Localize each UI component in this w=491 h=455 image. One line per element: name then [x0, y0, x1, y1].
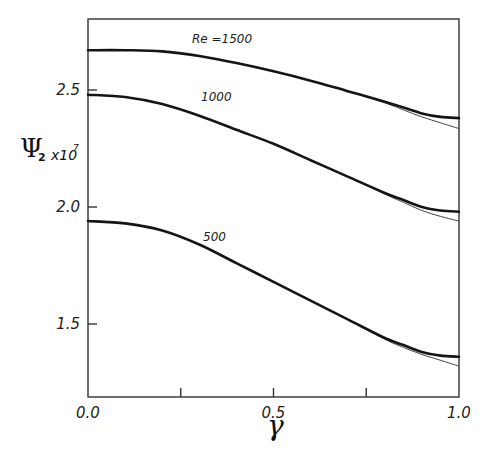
y-axis: 1.52.02.5 [56, 81, 97, 333]
curve-re-1500 [88, 50, 459, 118]
y-tick-label: 2.0 [56, 198, 80, 216]
curve-label-1000: 1000 [201, 90, 232, 104]
y-tick-label: 2.5 [56, 81, 80, 99]
curve-label-500: 500 [203, 230, 226, 244]
x-axis-label: γ [267, 409, 284, 442]
x-tick-label: 1.0 [447, 404, 471, 422]
plot-frame [88, 19, 459, 397]
curve-1000 [88, 95, 459, 212]
curve-re-1500-approx [88, 50, 459, 128]
curve-label-re1500: Re =1500 [192, 32, 252, 46]
curve-1000-approx [88, 95, 459, 221]
y-tick-label: 1.5 [56, 315, 80, 333]
chart: 1.52.02.5 0.00.51.0 Re =1500 1000 500 Ψ … [0, 0, 491, 455]
svg-text:2: 2 [38, 151, 46, 164]
svg-text:7: 7 [73, 143, 79, 153]
x-tick-label: 0.0 [76, 404, 100, 422]
curve-500 [88, 221, 459, 357]
y-axis-label: Ψ 2 x10 7 [20, 133, 79, 164]
curves [88, 50, 459, 366]
